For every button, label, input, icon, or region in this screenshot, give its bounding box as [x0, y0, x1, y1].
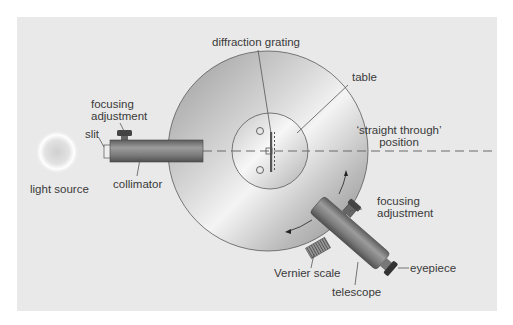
spectrometer-diagram: diffraction grating table focusing adjus… [0, 0, 513, 325]
label-vernier-scale: Vernier scale [274, 267, 340, 279]
label-straight-through-1: ‘straight through’ [356, 124, 441, 136]
label-focusing-adjustment-collimator-1: focusing [91, 98, 134, 110]
label-light-source: light source [30, 183, 89, 195]
light-source-glow [35, 130, 79, 174]
label-focusing-adjustment-telescope-2: adjustment [377, 207, 434, 219]
label-telescope: telescope [332, 286, 381, 298]
label-straight-through-2: position [379, 136, 419, 148]
label-focusing-adjustment-telescope-1: focusing [377, 195, 420, 207]
collimator-tube [110, 140, 203, 162]
label-slit: slit [85, 128, 100, 140]
label-diffraction-grating: diffraction grating [212, 36, 300, 48]
label-table: table [352, 71, 377, 83]
label-focusing-adjustment-collimator-2: adjustment [91, 110, 148, 122]
label-eyepiece: eyepiece [410, 262, 456, 274]
label-collimator: collimator [113, 178, 162, 190]
